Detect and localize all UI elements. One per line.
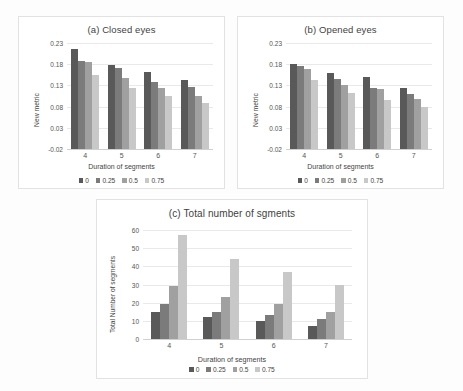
plot-area-b: 0.230.180.130.080.03-0.024567 [286,43,432,149]
bar-0.5-5 [221,297,230,339]
y-axis-tick-c: 40 [132,263,139,270]
bar-0.75-7 [335,285,344,340]
x-axis-tick-5: 5 [120,152,124,159]
chart-panel-c: (c) Total number of sgments Total Number… [96,199,368,379]
legend-item-0[interactable]: 0 [298,177,308,184]
legend-c: 00.250.50.75 [97,366,367,373]
y-axis-tick-c: 50 [132,245,139,252]
x-axis-tick-4: 4 [302,152,306,159]
legend-item-0.75[interactable]: 0.75 [364,177,383,184]
legend-item-0.5[interactable]: 0.5 [341,177,357,184]
legend-label: 0.25 [321,177,334,184]
legend-label: 0.5 [129,177,138,184]
legend-item-0.75[interactable]: 0.75 [145,177,164,184]
x-axis-tick-5: 5 [219,342,223,349]
bar-group [143,230,195,339]
x-axis-label-c: Duration of segments [97,355,367,364]
legend-item-0.75[interactable]: 0.75 [255,366,274,373]
bar-0-4 [151,312,160,339]
legend-label: 0.5 [348,177,357,184]
bar-0.75-4 [178,235,187,339]
bar-0.75-7 [202,103,209,149]
bar-0.5-6 [377,89,384,149]
chart-title-b: (b) Opened eyes [238,24,443,35]
x-axis-tick-6: 6 [272,342,276,349]
bar-0-7 [308,326,317,339]
y-axis-tick-a: 0.03 [50,124,63,131]
y-axis-tick-a: 0.13 [50,82,63,89]
legend-item-0.5[interactable]: 0.5 [233,366,249,373]
chart-title-c: (c) Total number of sgments [97,208,367,219]
bar-0.75-5 [129,88,136,149]
x-axis-tick-6: 6 [156,152,160,159]
bar-0.5-4 [304,69,311,149]
bar-0.25-7 [188,87,195,149]
x-axis-tick-7: 7 [193,152,197,159]
y-axis-tick-c: 0 [135,336,139,343]
legend-swatch-icon [341,178,346,183]
bar-0.5-7 [326,312,335,339]
bar-0.75-6 [165,96,172,149]
bar-group [359,43,396,149]
bar-0.25-6 [265,315,274,339]
bar-group [177,43,214,149]
y-axis-label-b: New metric [252,93,259,127]
figure-canvas: (a) Closed eyes New metric 0.230.180.130… [0,0,463,391]
x-axis-tick-7: 7 [412,152,416,159]
y-axis-tick-b: 0.03 [269,124,282,131]
x-axis-tick-7: 7 [324,342,328,349]
legend-item-0.5[interactable]: 0.5 [122,177,138,184]
bar-group [67,43,104,149]
x-axis-label-b: Duration of segments [238,163,443,170]
bar-0-6 [144,72,151,149]
legend-item-0.25[interactable]: 0.25 [315,177,334,184]
y-axis-tick-a: 0.18 [50,61,63,68]
legend-swatch-icon [96,178,101,183]
bar-0-5 [108,65,115,149]
bar-0.25-5 [334,79,341,149]
y-axis-tick-c: 20 [132,299,139,306]
y-axis-tick-b: -0.02 [267,146,282,153]
legend-label: 0.75 [370,177,383,184]
y-axis-label-c: Total Number of segments [109,256,116,333]
y-axis-tick-a: 0.23 [50,40,63,47]
legend-label: 0.5 [239,366,248,373]
bar-0.25-5 [115,68,122,149]
bar-group [248,230,300,339]
bar-0.5-7 [195,96,202,149]
legend-a: 00.250.50.75 [19,177,224,184]
legend-swatch-icon [364,178,369,183]
bar-0.5-6 [158,88,165,149]
legend-swatch-icon [79,178,84,183]
bar-0.25-5 [212,312,221,339]
gridline [286,149,432,150]
x-axis-label-a: Duration of segments [19,163,224,170]
y-axis-tick-c: 30 [132,281,139,288]
legend-label: 0 [304,177,308,184]
legend-label: 0 [196,366,200,373]
legend-swatch-icon [189,367,194,372]
y-axis-tick-c: 60 [132,227,139,234]
bar-group [195,230,247,339]
bar-0.25-4 [78,61,85,149]
legend-swatch-icon [122,178,127,183]
bar-0.5-4 [169,286,178,339]
gridline [67,149,213,150]
legend-swatch-icon [255,367,260,372]
legend-item-0.25[interactable]: 0.25 [206,366,225,373]
bar-group [286,43,323,149]
bar-0.25-7 [317,319,326,339]
bar-0.75-4 [311,80,318,149]
legend-item-0[interactable]: 0 [189,366,199,373]
legend-swatch-icon [315,178,320,183]
bar-0.75-6 [283,272,292,339]
legend-swatch-icon [145,178,150,183]
legend-item-0[interactable]: 0 [79,177,89,184]
bar-0-6 [256,321,265,339]
legend-item-0.25[interactable]: 0.25 [96,177,115,184]
y-axis-label-a: New metric [33,93,40,127]
chart-title-a: (a) Closed eyes [19,24,224,35]
bar-0-7 [400,88,407,149]
bar-group [323,43,360,149]
legend-label: 0 [85,177,89,184]
